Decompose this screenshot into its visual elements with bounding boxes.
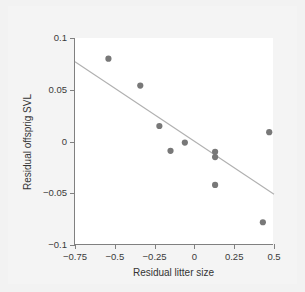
y-tick-mark	[70, 193, 75, 194]
regression-line	[75, 62, 274, 194]
data-points	[105, 56, 272, 226]
x-tick-mark	[115, 244, 116, 249]
plot-panel: −0.1−0.0500.050.1 −0.75−0.5−0.2500.250.5	[74, 38, 273, 245]
y-tick-mark	[70, 90, 75, 91]
x-axis-label: Residual litter size	[74, 268, 273, 278]
y-tick-label: −0.05	[43, 189, 67, 199]
y-tick-label: −0.1	[48, 240, 67, 250]
figure-canvas: −0.1−0.0500.050.1 −0.75−0.5−0.2500.250.5…	[8, 6, 297, 284]
data-point	[156, 123, 162, 129]
data-point	[266, 129, 272, 135]
x-tick-mark	[194, 244, 195, 249]
x-tick-label: 0.25	[225, 252, 244, 262]
data-point	[260, 219, 266, 225]
data-point	[182, 139, 188, 145]
plot-svg	[75, 38, 274, 245]
y-tick-label: 0.05	[49, 85, 68, 95]
y-tick-label: 0	[62, 137, 67, 147]
figure: −0.1−0.0500.050.1 −0.75−0.5−0.2500.250.5…	[0, 0, 305, 292]
x-tick-label: −0.5	[105, 252, 124, 262]
y-tick-mark	[70, 142, 75, 143]
x-tick-label: 0.5	[267, 252, 280, 262]
x-tick-mark	[274, 244, 275, 249]
y-axis-label: Residual offsprig SVL	[23, 94, 33, 190]
x-tick-mark	[234, 244, 235, 249]
y-tick-label: 0.1	[54, 33, 67, 43]
x-tick-mark	[75, 244, 76, 249]
data-point	[137, 83, 143, 89]
data-point	[212, 154, 218, 160]
data-point	[212, 182, 218, 188]
x-tick-label: 0	[192, 252, 197, 262]
x-tick-label: −0.25	[143, 252, 167, 262]
x-tick-mark	[155, 244, 156, 249]
x-tick-label: −0.75	[63, 252, 87, 262]
data-point	[167, 148, 173, 154]
data-point	[105, 56, 111, 62]
y-axis-label-container: Residual offsprig SVL	[21, 38, 35, 245]
y-tick-mark	[70, 38, 75, 39]
